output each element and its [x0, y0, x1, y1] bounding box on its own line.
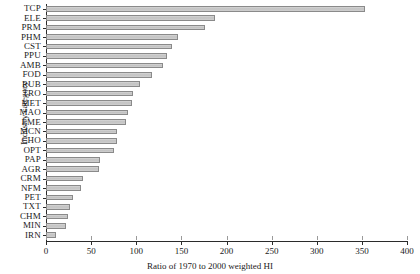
category-label-fod: FOD — [22, 70, 41, 79]
x-axis-tick — [46, 241, 47, 245]
bar-pet — [46, 195, 73, 201]
x-tick-label-400: 400 — [387, 247, 420, 256]
bar-pap — [46, 157, 100, 163]
bar-phm — [46, 34, 178, 40]
bar-min — [46, 223, 66, 229]
x-axis-tick — [362, 241, 363, 245]
category-label-irn: IRN — [25, 231, 41, 240]
category-label-mao: MAO — [19, 108, 41, 117]
bar-irn — [46, 232, 56, 238]
x-axis-tick — [227, 241, 228, 245]
x-axis-tick — [91, 241, 92, 245]
category-label-prm: PRM — [21, 23, 41, 32]
bar-chm — [46, 214, 68, 220]
bar-amb — [46, 63, 163, 69]
x-axis-tick-inner — [272, 236, 273, 240]
bar-cho — [46, 138, 117, 144]
category-label-tro: TRO — [22, 89, 41, 98]
bar-txt — [46, 204, 70, 210]
x-tick-label-200: 200 — [207, 247, 247, 256]
bar-crm — [46, 176, 83, 182]
category-label-crm: CRM — [20, 174, 41, 183]
bar-nfm — [46, 185, 81, 191]
bar-mcn — [46, 129, 117, 135]
bar-rub — [46, 81, 140, 87]
chart-container: Industry category TCPELEPRMPHMCSTPPUAMBF… — [0, 0, 420, 274]
bar-ppu — [46, 53, 167, 59]
x-tick-label-100: 100 — [116, 247, 156, 256]
x-axis-tick-inner — [46, 236, 47, 240]
bar-tro — [46, 91, 133, 97]
bar-mao — [46, 110, 128, 116]
x-axis-tick — [407, 241, 408, 245]
x-axis-tick — [272, 241, 273, 245]
bar-prm — [46, 25, 205, 31]
category-label-min: MIN — [23, 221, 41, 230]
x-axis-tick — [317, 241, 318, 245]
x-tick-label-50: 50 — [71, 247, 111, 256]
bar-tcp — [46, 6, 365, 12]
x-tick-label-0: 0 — [26, 247, 66, 256]
x-axis-tick-inner — [91, 236, 92, 240]
x-axis-tick-inner — [362, 236, 363, 240]
x-axis-tick-inner — [407, 236, 408, 240]
x-axis-tick — [136, 241, 137, 245]
bar-ele — [46, 15, 215, 21]
bar-agr — [46, 166, 99, 172]
x-axis-tick-inner — [136, 236, 137, 240]
x-axis-tick-inner — [227, 236, 228, 240]
x-axis-title: Ratio of 1970 to 2000 weighted HI — [0, 261, 420, 271]
bar-opt — [46, 148, 114, 154]
bar-cst — [46, 44, 172, 50]
category-label-tcp: TCP — [24, 4, 41, 13]
x-axis-tick-inner — [181, 236, 182, 240]
x-tick-label-300: 300 — [297, 247, 337, 256]
bar-eme — [46, 119, 126, 125]
x-tick-label-250: 250 — [252, 247, 292, 256]
x-axis-tick-inner — [317, 236, 318, 240]
plot-area: TCPELEPRMPHMCSTPPUAMBFODRUBTROMETMAOEMEM… — [46, 4, 407, 240]
x-tick-label-150: 150 — [161, 247, 201, 256]
x-tick-label-350: 350 — [342, 247, 382, 256]
bar-fod — [46, 72, 152, 78]
x-axis-tick — [181, 241, 182, 245]
category-label-pap: PAP — [25, 155, 41, 164]
bar-met — [46, 100, 132, 106]
